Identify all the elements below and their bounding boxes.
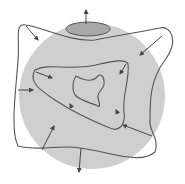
- boundary-diagram: [0, 0, 185, 184]
- top-cap: [66, 22, 110, 36]
- sphere: [19, 23, 165, 169]
- inward-arrow-icon: [26, 26, 38, 40]
